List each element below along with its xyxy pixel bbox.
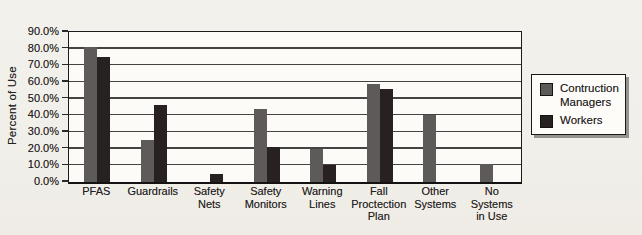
x-axis-labels: PFASGuardrailsSafety NetsSafety Monitors…: [68, 185, 520, 223]
x-axis-label: Fall Proctection Plan: [351, 185, 408, 223]
bar-group: [408, 32, 465, 182]
plot-area: [68, 31, 522, 184]
y-tick-label: 90.0%: [28, 25, 68, 37]
bar: [367, 84, 380, 182]
bar-group: [182, 32, 239, 182]
legend-label-contruction-managers: Contruction Managers: [560, 82, 619, 109]
legend-item-workers: Workers: [540, 114, 618, 128]
bar: [310, 149, 323, 182]
x-axis-label: Guardrails: [125, 185, 182, 223]
x-axis-label: No Systems in Use: [464, 185, 521, 223]
bar: [480, 164, 493, 182]
x-axis-label: PFAS: [68, 185, 125, 223]
legend: Contruction Managers Workers: [531, 74, 626, 135]
bar: [423, 115, 436, 182]
x-axis-label: Warning Lines: [294, 185, 351, 223]
bar: [267, 147, 280, 182]
y-axis-title: Percent of Use: [3, 31, 21, 181]
legend-swatch-workers: [540, 115, 553, 128]
bar: [254, 109, 267, 182]
legend-item-contruction-managers: Contruction Managers: [540, 82, 618, 109]
bar-group: [239, 32, 296, 182]
x-axis-label: Safety Monitors: [238, 185, 295, 223]
legend-swatch-contruction-managers: [540, 83, 553, 96]
x-axis-label: Other Systems: [407, 185, 464, 223]
y-tick-label: 80.0%: [28, 42, 68, 54]
bar-group: [352, 32, 409, 182]
bar: [323, 165, 336, 182]
y-tick-label: 20.0%: [28, 142, 68, 154]
bar-group: [465, 32, 522, 182]
bar-group: [295, 32, 352, 182]
y-tick-label: 50.0%: [28, 92, 68, 104]
y-tick-label: 60.0%: [28, 75, 68, 87]
bar: [84, 47, 97, 182]
x-axis-label: Safety Nets: [181, 185, 238, 223]
y-tick-label: 70.0%: [28, 58, 68, 70]
bar: [210, 174, 223, 182]
bar: [141, 140, 154, 182]
bar-group: [69, 32, 126, 182]
legend-label-workers: Workers: [560, 114, 603, 128]
y-axis-ticks: 0.0%10.0%20.0%30.0%40.0%50.0%60.0%70.0%8…: [20, 31, 68, 181]
y-tick-label: 0.0%: [34, 175, 68, 187]
y-tick-label: 30.0%: [28, 125, 68, 137]
scanned-bar-chart-page: Percent of Use 0.0%10.0%20.0%30.0%40.0%5…: [0, 0, 642, 235]
bar: [154, 105, 167, 182]
bar: [97, 57, 110, 182]
bar-group: [126, 32, 183, 182]
bar: [380, 89, 393, 182]
y-tick-label: 10.0%: [28, 158, 68, 170]
y-tick-label: 40.0%: [28, 108, 68, 120]
